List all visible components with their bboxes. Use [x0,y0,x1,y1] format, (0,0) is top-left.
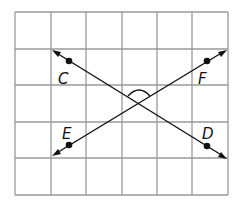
angle-arc [128,90,150,96]
grid [15,12,228,195]
arrowhead-upper-right-icon [218,50,227,57]
label-D: D [202,125,214,143]
label-E: E [62,125,72,143]
label-F: F [198,70,207,88]
label-C: C [58,70,69,88]
point-D [204,143,211,150]
arrowhead-lower-left-icon [52,149,61,156]
diagram-canvas: C F E D [0,0,240,208]
point-C [66,58,73,65]
point-F [204,58,211,65]
arrowhead-upper-left-icon [52,50,61,57]
